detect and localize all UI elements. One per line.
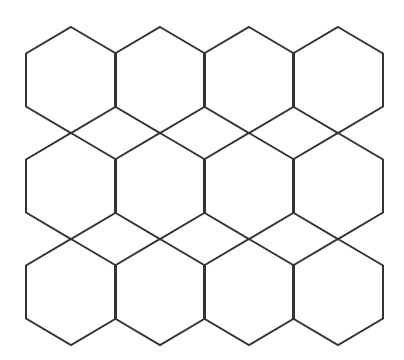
hexagon-r3-c1	[26, 239, 116, 345]
hexagon-r2-c4	[293, 133, 383, 239]
hexagon-r3-c2	[115, 239, 205, 345]
hexagon-r2-c2	[115, 133, 205, 239]
hexagon-r2-c3	[204, 133, 294, 239]
hexagon-r1-c1	[26, 27, 116, 133]
hexagon-r1-c4	[293, 27, 383, 133]
hexagon-diagram	[0, 0, 404, 360]
hexagon-r1-c2	[115, 27, 205, 133]
hexagon-r3-c3	[204, 239, 294, 345]
hexagon-r3-c4	[293, 239, 383, 345]
hexagon-r1-c3	[204, 27, 294, 133]
hexagon-r2-c1	[26, 133, 116, 239]
